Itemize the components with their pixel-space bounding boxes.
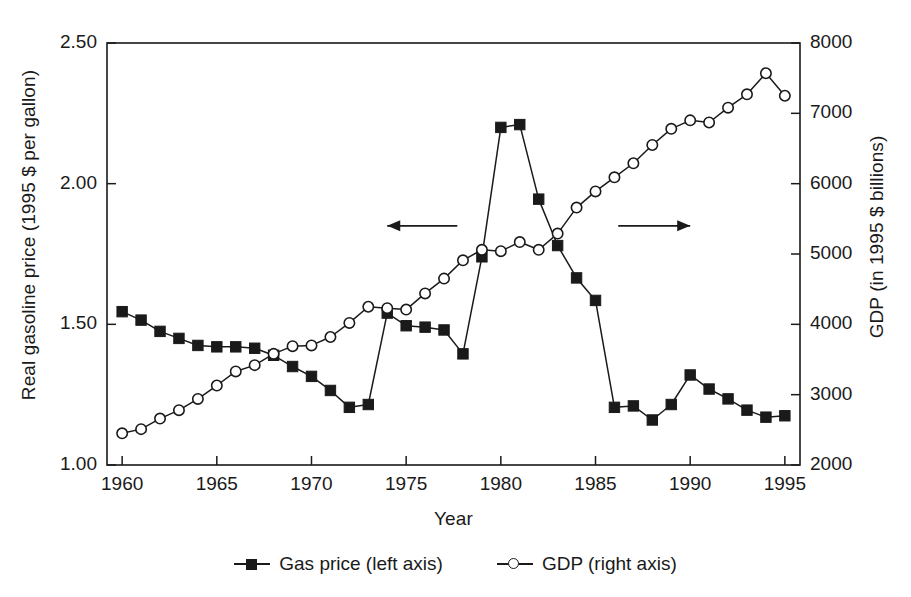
- data-point: [212, 380, 222, 390]
- data-point: [685, 370, 695, 380]
- data-point: [571, 273, 581, 283]
- data-point: [496, 246, 506, 256]
- annotation-arrowhead: [677, 220, 690, 231]
- data-point: [382, 303, 392, 313]
- legend-item-label: GDP (right axis): [542, 553, 677, 575]
- plot-frame: [107, 43, 800, 465]
- data-point: [174, 333, 184, 343]
- data-point: [666, 124, 676, 134]
- y-axis-right-tick-label: 2000: [810, 453, 880, 475]
- data-point: [287, 341, 297, 351]
- data-point: [761, 68, 771, 78]
- data-point: [496, 122, 506, 132]
- chart-figure: Real gasoline price (1995 $ per gallon) …: [0, 0, 911, 597]
- y-axis-left-tick-label: 1.00: [27, 453, 97, 475]
- y-axis-left-tick-label: 2.50: [27, 31, 97, 53]
- data-point: [193, 394, 203, 404]
- data-point: [268, 349, 278, 359]
- data-point: [136, 315, 146, 325]
- data-point: [590, 186, 600, 196]
- y-axis-right-tick-label: 5000: [810, 242, 880, 264]
- x-axis-tick-label: 1980: [461, 473, 541, 495]
- right-axis-arrow-annotation: [618, 220, 690, 231]
- data-point: [439, 325, 449, 335]
- data-point: [628, 158, 638, 168]
- data-point: [647, 415, 657, 425]
- data-point: [742, 89, 752, 99]
- y-axis-left-title: Real gasoline price (1995 $ per gallon): [14, 0, 44, 470]
- data-point: [534, 245, 544, 255]
- data-point: [458, 349, 468, 359]
- data-point: [590, 295, 600, 305]
- y-axis-left-tick-label: 1.50: [27, 312, 97, 334]
- data-point: [704, 117, 714, 127]
- data-point: [704, 384, 714, 394]
- y-axis-right-tick-label: 6000: [810, 172, 880, 194]
- legend-item-label: Gas price (left axis): [279, 553, 443, 575]
- data-point: [420, 288, 430, 298]
- data-point: [155, 413, 165, 423]
- data-point: [344, 318, 354, 328]
- data-point: [287, 361, 297, 371]
- data-point: [515, 237, 525, 247]
- data-point: [231, 366, 241, 376]
- data-point: [174, 405, 184, 415]
- series-gdp: [117, 68, 790, 439]
- data-point: [231, 342, 241, 352]
- data-point: [306, 371, 316, 381]
- x-axis-tick-label: 1970: [271, 473, 351, 495]
- data-point: [723, 103, 733, 113]
- data-point: [552, 240, 562, 250]
- data-point: [571, 202, 581, 212]
- data-point: [136, 424, 146, 434]
- data-point: [325, 385, 335, 395]
- annotation-arrowhead: [387, 220, 400, 231]
- legend-key-marker: [246, 559, 257, 570]
- data-point: [401, 304, 411, 314]
- data-point: [401, 321, 411, 331]
- data-point: [155, 326, 165, 336]
- left-axis-arrow-annotation: [387, 220, 457, 231]
- x-axis-title: Year: [107, 508, 800, 530]
- data-point: [647, 140, 657, 150]
- data-point: [193, 340, 203, 350]
- data-point: [249, 360, 259, 370]
- data-point: [628, 401, 638, 411]
- legend-item-gas-price[interactable]: Gas price (left axis): [234, 553, 443, 575]
- chart-legend: Gas price (left axis)GDP (right axis): [0, 553, 911, 575]
- data-point: [685, 115, 695, 125]
- data-point: [420, 322, 430, 332]
- filled-square-marker-icon: [234, 557, 270, 571]
- data-point: [534, 194, 544, 204]
- data-point: [552, 228, 562, 238]
- data-point: [742, 405, 752, 415]
- data-point: [761, 412, 771, 422]
- data-point: [306, 340, 316, 350]
- data-point: [363, 399, 373, 409]
- data-point: [212, 342, 222, 352]
- x-axis-tick-label: 1985: [556, 473, 636, 495]
- data-point: [609, 172, 619, 182]
- x-axis-tick-label: 1965: [177, 473, 257, 495]
- data-point: [723, 394, 733, 404]
- x-axis-tick-label: 1960: [82, 473, 162, 495]
- data-point: [609, 402, 619, 412]
- data-point: [325, 332, 335, 342]
- data-point: [117, 306, 127, 316]
- x-axis-tick-label: 1995: [745, 473, 825, 495]
- y-axis-left-tick-label: 2.00: [27, 172, 97, 194]
- data-point: [666, 399, 676, 409]
- data-point: [458, 255, 468, 265]
- y-axis-right-tick-label: 4000: [810, 312, 880, 334]
- data-point: [117, 428, 127, 438]
- legend-item-gdp[interactable]: GDP (right axis): [497, 553, 677, 575]
- legend-key-marker: [508, 558, 519, 569]
- y-axis-right-tick-label: 8000: [810, 31, 880, 53]
- data-point: [439, 273, 449, 283]
- data-point: [249, 343, 259, 353]
- y-axis-right-tick-label: 3000: [810, 383, 880, 405]
- data-point: [780, 411, 790, 421]
- series-gas-price: [117, 119, 790, 425]
- data-point: [780, 91, 790, 101]
- y-axis-right-tick-label: 7000: [810, 101, 880, 123]
